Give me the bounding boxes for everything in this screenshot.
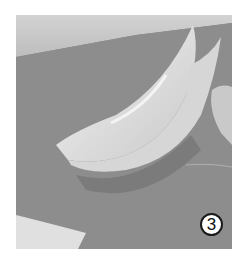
step-photo <box>16 15 232 249</box>
step-number-badge: 3 <box>200 213 223 236</box>
carved-vegetable-illustration <box>16 15 232 249</box>
